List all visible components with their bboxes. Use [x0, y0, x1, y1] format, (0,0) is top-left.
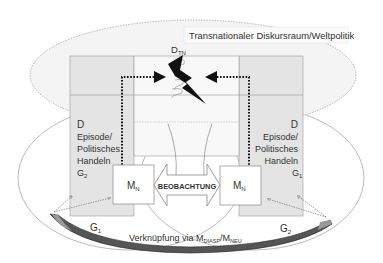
svg-text:Episode/: Episode/ — [77, 132, 113, 142]
diagram-canvas: Transnationaler Diskursraum/Weltpolitik … — [0, 0, 383, 263]
center-panel — [134, 56, 239, 156]
observation-label: BEOBACHTUNG — [158, 182, 217, 191]
left-group-label: G1 — [90, 222, 102, 234]
title-text: Transnationaler Diskursraum/Weltpolitik — [189, 30, 354, 41]
right-group-label: G2 — [280, 223, 292, 235]
svg-text:Episode/: Episode/ — [263, 132, 299, 142]
linkage-label: Verknüpfung via MDIASP/MNEU — [129, 233, 242, 244]
svg-text:Handeln: Handeln — [77, 156, 111, 166]
svg-text:Handeln: Handeln — [264, 156, 298, 166]
svg-text:D: D — [291, 119, 298, 130]
svg-text:Politisches: Politisches — [77, 144, 121, 154]
svg-text:D: D — [77, 119, 84, 130]
svg-text:Politisches: Politisches — [255, 144, 299, 154]
